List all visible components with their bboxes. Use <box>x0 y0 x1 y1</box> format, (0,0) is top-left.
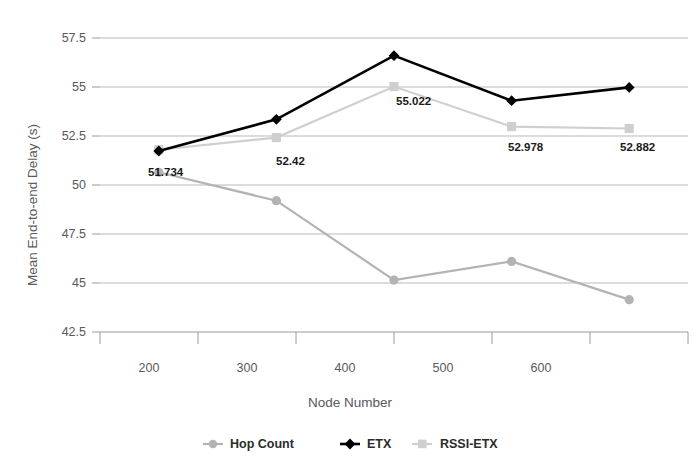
y-axis-title: Mean End-to-end Delay (s) <box>25 124 40 286</box>
x-axis-title: Node Number <box>308 395 393 410</box>
circle-marker <box>389 275 398 284</box>
series-etx <box>153 50 634 156</box>
y-tick-labels: 57.5 55 52.5 50 47.5 45 42.5 <box>62 31 86 339</box>
legend-label-rssi-etx: RSSI-ETX <box>440 437 498 451</box>
y-tick-label: 47.5 <box>62 227 86 241</box>
data-value-label: 51.734 <box>148 166 184 178</box>
series-hop-count <box>154 168 634 305</box>
circle-marker <box>272 196 281 205</box>
legend-item-rssi-etx[interactable]: RSSI-ETX <box>412 437 498 451</box>
data-value-label: 52.42 <box>276 155 305 167</box>
legend-label-hop-count: Hop Count <box>230 437 295 451</box>
x-axis <box>100 332 688 344</box>
diamond-marker <box>389 50 400 61</box>
y-tick-label: 52.5 <box>62 129 86 143</box>
gridlines <box>100 38 688 283</box>
diamond-marker <box>506 95 517 106</box>
x-tick-label: 600 <box>531 361 552 375</box>
circle-marker <box>625 295 634 304</box>
diamond-marker <box>271 114 282 125</box>
legend: Hop Count ETX RSSI-ETX <box>203 437 498 451</box>
data-value-label: 52.882 <box>620 141 655 153</box>
square-marker-icon <box>418 440 427 449</box>
x-tick-label: 500 <box>433 361 454 375</box>
circle-marker-icon <box>209 440 217 448</box>
y-tick-label: 55 <box>72 80 86 94</box>
series-line-etx <box>159 56 629 151</box>
chart-container: 57.5 55 52.5 50 47.5 45 42.5 200 300 400… <box>0 0 699 474</box>
x-tick-labels: 200 300 400 500 600 <box>139 361 552 375</box>
legend-label-etx: ETX <box>367 437 392 451</box>
y-tick-marks <box>92 38 100 332</box>
data-value-label: 52.978 <box>508 141 544 153</box>
y-tick-label: 50 <box>72 178 86 192</box>
legend-item-hop-count[interactable]: Hop Count <box>203 437 295 451</box>
diamond-marker-icon <box>345 439 356 450</box>
series-markers-etx <box>153 50 634 156</box>
series-rssi-etx <box>154 82 634 154</box>
y-tick-label: 45 <box>72 276 86 290</box>
square-marker <box>625 124 634 133</box>
diamond-marker <box>624 82 635 93</box>
square-marker <box>507 122 516 131</box>
y-tick-label: 57.5 <box>62 31 86 45</box>
y-tick-label: 42.5 <box>62 325 86 339</box>
data-value-label: 55.022 <box>396 95 431 107</box>
x-tick-label: 400 <box>335 361 356 375</box>
line-chart: 57.5 55 52.5 50 47.5 45 42.5 200 300 400… <box>0 0 699 474</box>
x-tick-label: 200 <box>139 361 160 375</box>
circle-marker <box>507 257 516 266</box>
square-marker <box>389 82 398 91</box>
square-marker <box>272 133 281 142</box>
legend-item-etx[interactable]: ETX <box>340 437 392 451</box>
x-tick-label: 300 <box>237 361 258 375</box>
